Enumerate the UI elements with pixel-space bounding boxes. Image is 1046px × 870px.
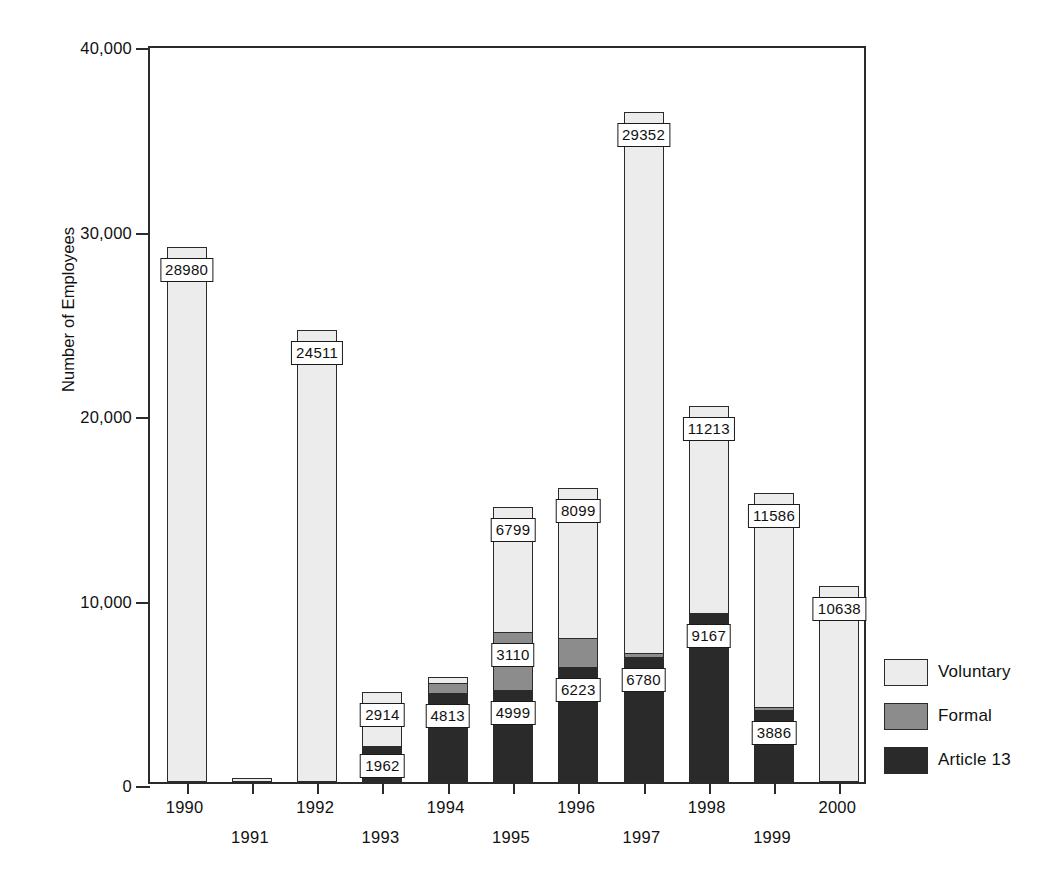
legend-label-formal: Formal xyxy=(938,706,992,726)
bar-1994[interactable]: 4813 xyxy=(428,677,468,782)
bar-segment-voluntary-1998[interactable]: 11213 xyxy=(689,406,729,613)
x-axis-label-1995: 1995 xyxy=(492,828,530,847)
x-axis-tick xyxy=(513,782,515,794)
value-label-article-1998: 9167 xyxy=(687,624,732,648)
bar-segment-article-1995[interactable]: 4999 xyxy=(493,690,533,782)
bar-segment-voluntary-1999[interactable]: 11586 xyxy=(754,493,794,707)
legend-swatch-article xyxy=(884,747,928,774)
legend-item-article[interactable]: Article 13 xyxy=(884,738,1044,782)
bar-segment-voluntary-1997[interactable]: 29352 xyxy=(624,112,664,654)
legend-swatch-formal xyxy=(884,703,928,730)
x-axis-label-1991: 1991 xyxy=(231,828,269,847)
y-axis-tick-label: 10,000 xyxy=(80,592,132,611)
chart-legend: VoluntaryFormalArticle 13 xyxy=(884,650,1044,782)
bar-1990[interactable]: 28980 xyxy=(167,247,207,782)
legend-swatch-voluntary xyxy=(884,659,928,686)
bar-2000[interactable]: 10638 xyxy=(819,586,859,782)
value-label-voluntary-1993: 2914 xyxy=(360,703,405,727)
bar-1995[interactable]: 679931104999 xyxy=(493,507,533,782)
y-axis-tick-label: 30,000 xyxy=(80,223,132,242)
legend-item-voluntary[interactable]: Voluntary xyxy=(884,650,1044,694)
plot-area: 010,00020,00030,00040,000289802451129141… xyxy=(148,46,866,784)
value-label-voluntary-1990: 28980 xyxy=(160,258,213,282)
value-label-voluntary-1998: 11213 xyxy=(683,417,735,441)
bar-segment-article-1998[interactable]: 9167 xyxy=(689,613,729,782)
bar-segment-voluntary-2000[interactable]: 10638 xyxy=(819,586,859,782)
bar-segment-voluntary-1996[interactable]: 8099 xyxy=(558,488,598,637)
x-axis-tick xyxy=(578,782,580,794)
bar-segment-formal-1995[interactable]: 3110 xyxy=(493,632,533,689)
value-label-voluntary-1996: 8099 xyxy=(556,499,601,523)
y-axis-tick xyxy=(136,48,150,50)
value-label-article-1999: 3886 xyxy=(752,721,797,745)
bar-segment-article-1999[interactable]: 3886 xyxy=(754,710,794,782)
bar-segment-article-1996[interactable]: 6223 xyxy=(558,667,598,782)
legend-item-formal[interactable]: Formal xyxy=(884,694,1044,738)
x-axis-label-1996: 1996 xyxy=(557,798,595,817)
bar-segment-article-1994[interactable]: 4813 xyxy=(428,693,468,782)
value-label-article-1995: 4999 xyxy=(491,701,536,725)
x-axis-label-2000: 2000 xyxy=(818,798,856,817)
bar-segment-voluntary-1990[interactable]: 28980 xyxy=(167,247,207,782)
legend-label-article: Article 13 xyxy=(938,750,1011,770)
x-axis-tick xyxy=(774,782,776,794)
y-axis-tick-label: 20,000 xyxy=(80,408,132,427)
legend-label-voluntary: Voluntary xyxy=(938,662,1011,682)
value-label-article-1993: 1962 xyxy=(360,754,405,778)
bar-segment-article-1997[interactable]: 6780 xyxy=(624,657,664,782)
x-axis-label-1990: 1990 xyxy=(166,798,204,817)
chart-figure: Number of Employees 010,00020,00030,0004… xyxy=(0,0,1046,870)
x-axis-label-1998: 1998 xyxy=(688,798,726,817)
value-label-formal-1995: 3110 xyxy=(491,643,534,667)
y-axis-tick xyxy=(136,602,150,604)
value-label-voluntary-1995: 6799 xyxy=(491,518,536,542)
value-label-voluntary-1999: 11586 xyxy=(748,504,800,528)
value-label-article-1994: 4813 xyxy=(425,704,470,728)
x-axis-tick xyxy=(448,782,450,794)
x-axis-tick xyxy=(382,782,384,794)
bar-1992[interactable]: 24511 xyxy=(297,330,337,782)
y-axis-tick-label: 0 xyxy=(123,777,132,796)
bar-segment-formal-1996[interactable] xyxy=(558,638,598,668)
bar-segment-voluntary-1995[interactable]: 6799 xyxy=(493,507,533,632)
bar-1998[interactable]: 112139167 xyxy=(689,406,729,782)
x-axis-tick xyxy=(252,782,254,794)
bar-segment-voluntary-1991[interactable] xyxy=(232,778,272,782)
y-axis-tick xyxy=(136,417,150,419)
bar-1993[interactable]: 29141962 xyxy=(362,692,402,782)
x-axis-label-1997: 1997 xyxy=(623,828,661,847)
x-axis-tick xyxy=(644,782,646,794)
value-label-article-1996: 6223 xyxy=(556,678,601,702)
y-axis-tick xyxy=(136,233,150,235)
x-axis-label-1993: 1993 xyxy=(362,828,400,847)
bar-1997[interactable]: 293526780 xyxy=(624,112,664,782)
x-axis-tick xyxy=(709,782,711,794)
x-axis-tick xyxy=(317,782,319,794)
x-axis-tick xyxy=(187,782,189,794)
value-label-voluntary-2000: 10638 xyxy=(813,597,866,621)
x-axis-label-1999: 1999 xyxy=(753,828,791,847)
value-label-voluntary-1997: 29352 xyxy=(617,123,670,147)
y-axis-tick xyxy=(136,786,150,788)
bar-segment-formal-1994[interactable] xyxy=(428,683,468,693)
bar-segment-voluntary-1992[interactable]: 24511 xyxy=(297,330,337,782)
bar-1991[interactable] xyxy=(232,778,272,782)
value-label-voluntary-1992: 24511 xyxy=(291,341,343,365)
bar-segment-voluntary-1993[interactable]: 2914 xyxy=(362,692,402,746)
value-label-article-1997: 6780 xyxy=(621,668,666,692)
y-axis-tick-label: 40,000 xyxy=(80,39,132,58)
x-axis-tick xyxy=(839,782,841,794)
bar-1999[interactable]: 115863886 xyxy=(754,493,794,782)
x-axis-label-1992: 1992 xyxy=(296,798,334,817)
bar-1996[interactable]: 80996223 xyxy=(558,488,598,782)
x-axis-label-1994: 1994 xyxy=(427,798,465,817)
y-axis-title: Number of Employees xyxy=(59,180,78,440)
bar-segment-article-1993[interactable]: 1962 xyxy=(362,746,402,782)
